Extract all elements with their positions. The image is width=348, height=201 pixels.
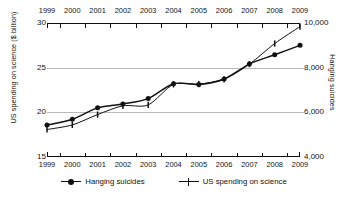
- data-point: [70, 117, 75, 122]
- y-axis-right-tick-label: 8,000: [304, 63, 338, 72]
- legend-item[interactable]: US spending on science: [179, 177, 287, 186]
- x-axis-bottom-tick-label: 2005: [186, 160, 212, 169]
- y-axis-left-title: US spending on science ($ billion): [9, 0, 18, 138]
- x-axis-top-tick-label: 2009: [287, 6, 313, 15]
- series-us-spending-on-science: [47, 23, 300, 132]
- x-axis-top-tick-label: 2008: [262, 6, 288, 15]
- legend-label: US spending on science: [203, 177, 287, 186]
- y-axis-right-tick-dash: [300, 68, 306, 69]
- y-axis-right-tick-label: 10,000: [304, 18, 338, 27]
- legend-label: Hanging suicides: [85, 177, 144, 186]
- y-axis-right-title: Hanging suicides: [328, 23, 337, 143]
- plot-area: [47, 23, 300, 157]
- series-plot: [47, 23, 300, 157]
- filled-circle-marker-icon: [61, 177, 81, 186]
- chart-legend: Hanging suicidesUS spending on science: [0, 177, 348, 186]
- x-axis-bottom-tick-label: 2001: [85, 160, 111, 169]
- x-axis-bottom-tick-label: 2006: [211, 160, 237, 169]
- x-axis-top-tick-label: 2007: [236, 6, 262, 15]
- data-point: [146, 96, 151, 101]
- y-axis-right-tick-label: 6,000: [304, 107, 338, 116]
- x-axis-bottom-tick-label: 2000: [59, 160, 85, 169]
- y-axis-left-tick-label: 25: [22, 63, 46, 72]
- data-point: [95, 105, 100, 110]
- data-point: [298, 43, 303, 48]
- x-axis-bottom-tick-label: 2003: [135, 160, 161, 169]
- x-axis-bottom-tick-label: 2004: [161, 160, 187, 169]
- data-point: [272, 52, 277, 57]
- x-axis-top-tick-label: 2005: [186, 6, 212, 15]
- x-axis-bottom-tick-label: 2002: [110, 160, 136, 169]
- y-axis-left-tick-label: 20: [22, 107, 46, 116]
- x-axis-top-tick-label: 2006: [211, 6, 237, 15]
- x-axis-top-tick-label: 1999: [34, 6, 60, 15]
- y-axis-left-tick-label: 30: [22, 18, 46, 27]
- y-axis-right-tick-dash: [300, 112, 306, 113]
- legend-item[interactable]: Hanging suicides: [61, 177, 144, 186]
- x-axis-top-tick-label: 2001: [85, 6, 111, 15]
- plus-marker-icon: [179, 177, 199, 186]
- x-axis-top-tick-label: 2000: [59, 6, 85, 15]
- x-axis-bottom-tick-label: 1999: [34, 160, 60, 169]
- spurious-correlation-chart: US spending on science ($ billion) Hangi…: [0, 0, 348, 201]
- x-axis-top-tick-label: 2003: [135, 6, 161, 15]
- x-axis-top-tick-label: 2004: [161, 6, 187, 15]
- x-axis-top-tick-label: 2002: [110, 6, 136, 15]
- x-axis-bottom-tick-label: 2007: [236, 160, 262, 169]
- x-axis-bottom-tick-label: 2008: [262, 160, 288, 169]
- x-axis-bottom-tick-label: 2009: [287, 160, 313, 169]
